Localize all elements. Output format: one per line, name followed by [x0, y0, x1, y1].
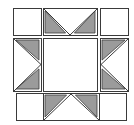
patch-center	[44, 39, 98, 92]
patch-bottom-right	[100, 94, 127, 121]
patch-bottom-left	[17, 94, 44, 121]
patch-bottom-middle	[44, 94, 100, 121]
patch-middle-right	[101, 39, 129, 92]
patch-outline	[14, 9, 42, 36]
patch-middle-left	[14, 39, 42, 92]
patch-top-right	[101, 9, 129, 36]
patch-top-middle	[44, 9, 98, 36]
patch-outline	[101, 9, 129, 36]
quilt-block-canvas	[0, 0, 134, 125]
patch-outline	[100, 94, 127, 121]
patch-outline	[44, 39, 98, 92]
patch-top-left	[14, 9, 42, 36]
patch-outline	[17, 94, 44, 121]
